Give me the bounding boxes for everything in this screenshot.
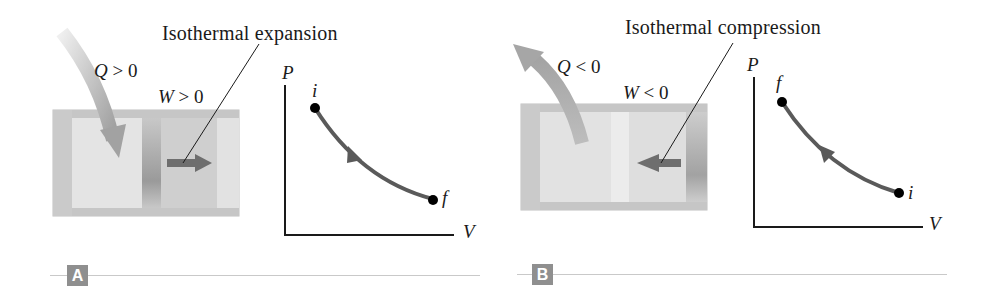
isotherm-curve bbox=[310, 103, 438, 205]
process-title: Isothermal compression bbox=[625, 16, 821, 39]
panel-isothermal-expansion: Isothermal expansion Q > 0 W > 0 P V i f… bbox=[0, 0, 497, 304]
x-axis-label: V bbox=[463, 221, 475, 243]
point-f bbox=[428, 195, 438, 205]
work-label: W < 0 bbox=[623, 82, 669, 104]
compression-diagram-graphics bbox=[497, 0, 997, 304]
pv-graph-axes bbox=[284, 85, 454, 235]
expansion-diagram-graphics bbox=[0, 0, 497, 304]
point-i bbox=[310, 103, 320, 113]
final-point-label: f bbox=[776, 72, 781, 94]
heat-label: Q > 0 bbox=[94, 60, 137, 82]
divider-rule bbox=[50, 275, 480, 276]
point-f bbox=[777, 97, 787, 107]
work-label: W > 0 bbox=[158, 86, 204, 108]
y-axis-label: P bbox=[282, 62, 294, 84]
panel-badge-b: B bbox=[532, 264, 553, 285]
divider-rule bbox=[517, 274, 947, 275]
piston bbox=[142, 118, 161, 208]
final-point-label: f bbox=[442, 187, 447, 209]
y-axis-label: P bbox=[747, 54, 759, 76]
initial-point-label: i bbox=[908, 182, 913, 204]
cylinder bbox=[521, 104, 707, 210]
curve-direction-arrow-icon bbox=[347, 146, 362, 163]
initial-point-label: i bbox=[312, 80, 317, 102]
heat-label: Q < 0 bbox=[557, 56, 600, 78]
isotherm-curve bbox=[777, 97, 904, 198]
panel-isothermal-compression: Isothermal compression Q < 0 W < 0 P V f… bbox=[497, 0, 997, 304]
piston bbox=[686, 112, 707, 202]
process-title: Isothermal expansion bbox=[162, 22, 338, 45]
x-axis-label: V bbox=[929, 213, 941, 235]
point-i bbox=[894, 188, 904, 198]
panel-badge-a: A bbox=[67, 265, 88, 286]
